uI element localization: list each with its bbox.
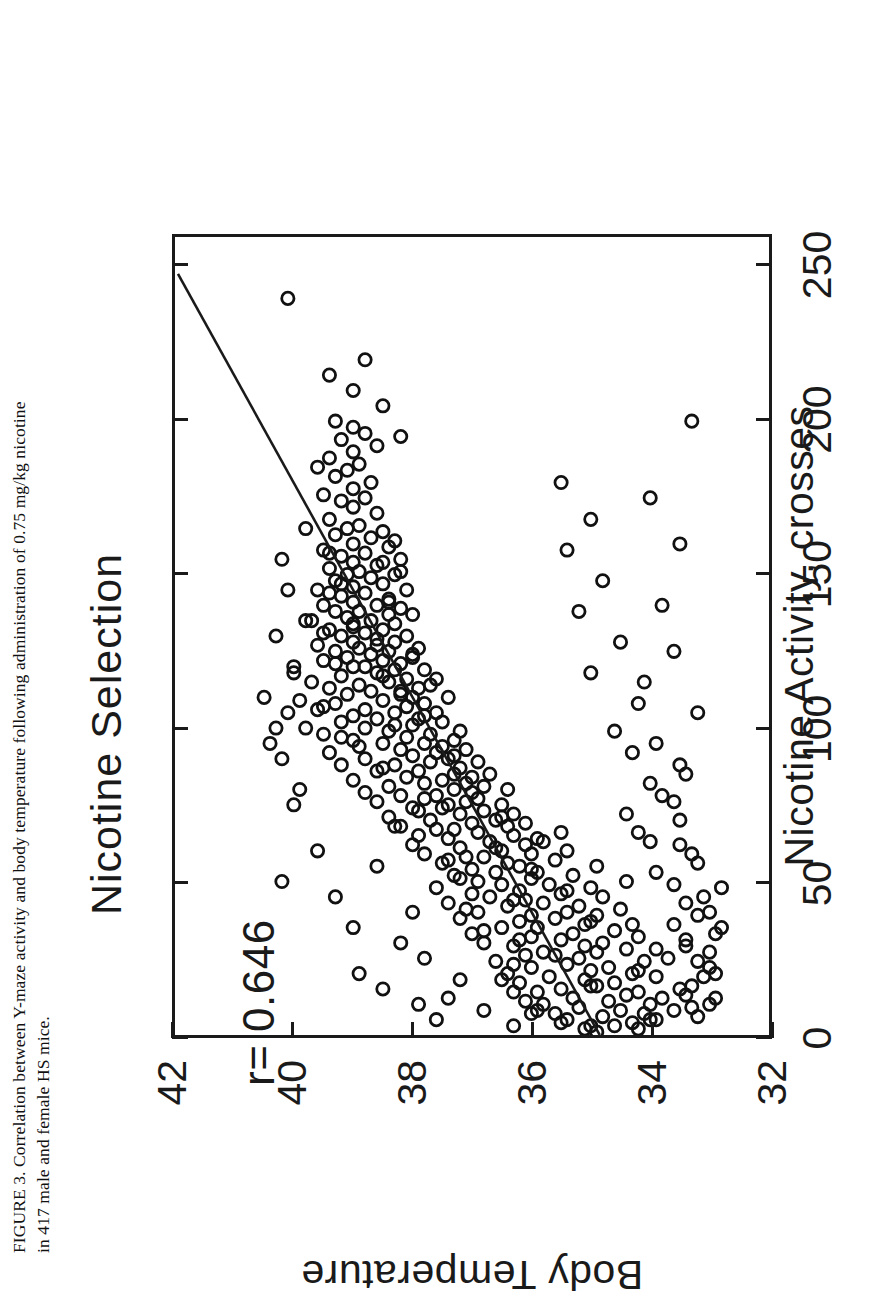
y-axis-tick [411,1022,414,1038]
y-axis-tick-label: 34 [629,1060,676,1106]
y-axis-title-wrapper: Body Temperature [172,1228,772,1295]
y-axis-tick-label: 38 [389,1060,436,1106]
x-axis-tick-top [172,418,188,421]
y-axis-title: Body Temperature [172,1251,772,1295]
y-axis-tick-label: 32 [749,1060,796,1106]
scatter-figure: Nicotine Selection 050100150200250323436… [76,84,866,1234]
y-axis-tick [771,1022,774,1038]
axis-layer: 050100150200250323436384042 [76,84,866,1234]
x-axis-tick [756,263,772,266]
caption-line-2: in 417 male and female HS mice. [33,23,54,1253]
x-axis-tick [756,572,772,575]
correlation-annotation: r= 0.646 [234,919,284,1086]
x-axis-tick-top [172,727,188,730]
y-axis-tick-label: 36 [509,1060,556,1106]
figure-rotation-wrapper: Nicotine Selection 050100150200250323436… [76,84,866,1234]
x-axis-tick [756,727,772,730]
y-axis-tick [171,1022,174,1038]
x-axis-tick-top [172,572,188,575]
figure-caption: FIGURE 3. Correlation between Y-maze act… [0,0,70,1243]
y-axis-tick [531,1022,534,1038]
x-axis-tick [756,1036,772,1039]
x-axis-tick-top [172,263,188,266]
x-axis-title: Nicotine Activity, crosses [776,234,823,1038]
y-axis-tick [651,1022,654,1038]
y-axis-tick-label: 42 [149,1060,196,1106]
caption-line-1: FIGURE 3. Correlation between Y-maze act… [9,23,30,1253]
x-axis-tick [756,418,772,421]
x-axis-tick [756,881,772,884]
y-axis-tick [291,1022,294,1038]
x-axis-tick-top [172,1036,188,1039]
x-axis-tick-top [172,881,188,884]
